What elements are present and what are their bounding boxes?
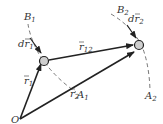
label-A2: A2 xyxy=(144,90,157,103)
path-1-curve xyxy=(28,24,76,92)
diagram-canvas: B1 B2 A1 A2 O dr1 dr2 r1 r2 r12 xyxy=(0,0,163,124)
vector-r2 xyxy=(20,52,134,119)
label-r12: r12 xyxy=(79,41,93,54)
path-2-curve xyxy=(111,14,150,90)
label-origin: O xyxy=(11,114,19,124)
label-B1: B1 xyxy=(23,11,36,24)
label-r1: r1 xyxy=(24,75,33,88)
vector-r1 xyxy=(20,64,41,119)
particle-m1 xyxy=(40,57,49,66)
label-dr2: dr2 xyxy=(128,13,144,26)
vector-dr2 xyxy=(127,25,136,38)
particle-m2 xyxy=(135,41,144,50)
